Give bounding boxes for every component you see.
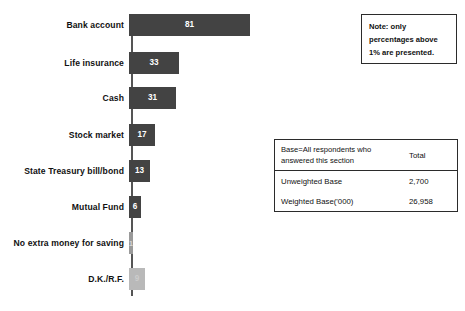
note-line: percentages above (369, 33, 450, 46)
bar-row: State Treasury bill/bond 13 (0, 160, 300, 182)
bar-row: Cash 31 (0, 87, 300, 109)
bar-no-extra-money-for-saving[interactable]: 1 (129, 232, 133, 254)
bar-row: Bank account 81 (0, 14, 300, 36)
table-header-description-line2: answered this section (281, 155, 403, 166)
bar-value-label: 6 (133, 203, 138, 211)
bar-bank-account[interactable]: 81 (129, 14, 250, 36)
bar-value-label: 81 (185, 21, 194, 29)
bar-chart: Bank account 81 Life insurance 33 Cash 3… (0, 0, 300, 311)
bar-category-label: State Treasury bill/bond (0, 166, 128, 176)
note-line: 1% are presented. (369, 46, 450, 59)
bar-category-label: Cash (0, 93, 128, 103)
bar-category-label: No extra money for saving (0, 238, 128, 248)
bar-row: Stock market 17 (0, 124, 300, 146)
bar-stock-market[interactable]: 17 (129, 124, 155, 146)
bar-row: D.K./R.F. 9 (0, 268, 300, 290)
bar-track: 9 (128, 268, 300, 290)
bar-track: 33 (128, 52, 300, 74)
bar-mutual-fund[interactable]: 6 (129, 196, 141, 218)
table-row-label: Unweighted Base (275, 177, 403, 186)
bar-value-label: 31 (148, 94, 157, 102)
bar-row: Life insurance 33 (0, 52, 300, 74)
table-row-label: Weighted Base('000) (275, 197, 403, 206)
bar-cash[interactable]: 31 (129, 87, 176, 109)
note-line: Note: only (369, 20, 450, 33)
table-row: Weighted Base('000) 26,958 (275, 191, 457, 211)
bar-category-label: Bank account (0, 20, 128, 30)
table-header-description-line1: Base=All respondents who (281, 144, 403, 155)
bar-category-label: D.K./R.F. (0, 274, 128, 284)
bar-row: No extra money for saving 1 (0, 232, 300, 254)
bar-value-label: 17 (137, 131, 146, 139)
chart-page: Bank account 81 Life insurance 33 Cash 3… (0, 0, 465, 311)
bar-row: Mutual Fund 6 (0, 196, 300, 218)
bar-life-insurance[interactable]: 33 (129, 52, 179, 74)
bar-state-treasury-bill-bond[interactable]: 13 (129, 160, 150, 182)
bar-category-label: Life insurance (0, 58, 128, 68)
bar-track: 31 (128, 87, 300, 109)
base-table: Base=All respondents who answered this s… (274, 139, 458, 212)
table-row-value: 2,700 (403, 177, 457, 186)
bar-value-label: 13 (135, 167, 144, 175)
table-header-total: Total (403, 144, 457, 166)
bar-value-label: 1 (129, 240, 133, 247)
table-row-value: 26,958 (403, 197, 457, 206)
table-header-row: Base=All respondents who answered this s… (275, 140, 457, 171)
bar-category-label: Mutual Fund (0, 202, 128, 212)
bar-track: 1 (128, 232, 300, 254)
bar-track: 81 (128, 14, 300, 36)
table-header-description: Base=All respondents who answered this s… (275, 144, 403, 166)
note-box: Note: only percentages above 1% are pres… (361, 14, 457, 64)
table-row: Unweighted Base 2,700 (275, 171, 457, 191)
bar-dk-rf[interactable]: 9 (129, 268, 145, 290)
bar-category-label: Stock market (0, 130, 128, 140)
bar-value-label: 33 (149, 59, 158, 67)
bar-value-label: 9 (135, 275, 140, 283)
